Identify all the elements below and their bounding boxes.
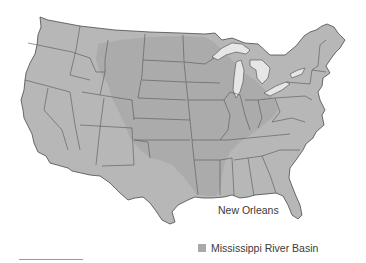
- legend-label-basin: Mississippi River Basin: [211, 242, 318, 254]
- legend: Mississippi River Basin: [198, 242, 318, 254]
- divider-line: [19, 259, 83, 260]
- us-map: [0, 0, 366, 263]
- city-label-new-orleans: New Orleans: [218, 204, 279, 216]
- legend-swatch-basin: [198, 244, 206, 252]
